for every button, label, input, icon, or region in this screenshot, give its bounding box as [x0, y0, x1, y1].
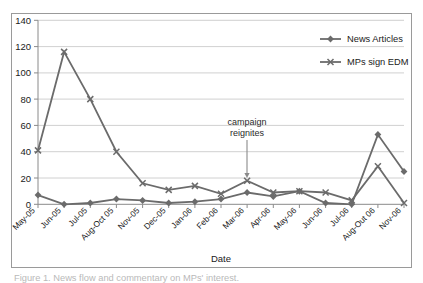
- x-tick-label: Jan-06: [169, 205, 194, 230]
- annotation-campaign-reignites: campaign reignites: [227, 117, 266, 178]
- y-tick-marks: [34, 20, 38, 204]
- legend-label-news-articles: News Articles: [347, 34, 403, 44]
- y-axis-tick-labels: 140 120 100 80 60 40 20 0: [15, 15, 31, 210]
- line-chart: 140 120 100 80 60 40 20 0 May-05 Jun-05 …: [0, 0, 423, 283]
- x-tick-label: Jul-05: [66, 205, 89, 228]
- x-tick-label: Jul-06: [328, 205, 351, 228]
- x-tick-label: Dec-05: [142, 205, 168, 231]
- figure-caption: Figure 1. News flow and commentary on MP…: [14, 273, 239, 283]
- x-axis-tick-labels: May-05 Jun-05 Jul-05 Aug-Oct 05 Nov-05 D…: [10, 205, 403, 242]
- y-tick-label: 80: [20, 94, 31, 105]
- x-tick-label: Nov-05: [116, 205, 142, 231]
- legend-item-news-articles: News Articles: [320, 34, 403, 44]
- y-tick-label: 120: [15, 41, 31, 52]
- x-tick-label: Jun-06: [300, 205, 325, 230]
- chart-figure: 140 120 100 80 60 40 20 0 May-05 Jun-05 …: [0, 0, 423, 283]
- y-tick-label: 140: [15, 15, 31, 26]
- chart-legend: News Articles MPs sign EDM: [320, 34, 408, 67]
- series-news-articles: [35, 131, 408, 208]
- y-tick-label: 100: [15, 67, 31, 78]
- x-axis-title: Date: [211, 253, 231, 264]
- x-tick-label: Mar-06: [220, 205, 246, 231]
- series-mps-sign-edm: [35, 49, 407, 206]
- y-tick-label: 20: [20, 173, 31, 184]
- x-tick-label: Nov-06: [377, 205, 403, 231]
- x-tick-label: May-05: [10, 205, 37, 232]
- legend-label-mps-sign-edm: MPs sign EDM: [347, 57, 408, 67]
- x-tick-label: Feb-06: [194, 205, 220, 231]
- x-tick-label: Jun-05: [38, 205, 63, 230]
- annotation-line-2: reignites: [230, 128, 265, 138]
- y-tick-label: 40: [20, 146, 31, 157]
- legend-item-mps-sign-edm: MPs sign EDM: [320, 57, 408, 67]
- annotation-line-1: campaign: [227, 117, 266, 127]
- annotation-arrow-head: [244, 173, 249, 178]
- x-tick-label: Apr-06: [248, 205, 273, 230]
- x-tick-label: May-06: [272, 205, 299, 232]
- y-tick-label: 60: [20, 120, 31, 131]
- diamond-marker-icon: [327, 36, 334, 43]
- chart-axes: [38, 20, 404, 204]
